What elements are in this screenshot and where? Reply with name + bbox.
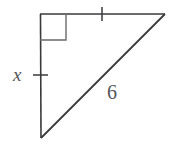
triangle-left-leg xyxy=(41,14,42,138)
label-hypotenuse-6: 6 xyxy=(107,81,117,103)
label-leg-x: x xyxy=(12,64,22,85)
figure-background xyxy=(0,0,174,163)
right-triangle-figure: x 6 xyxy=(0,0,174,163)
